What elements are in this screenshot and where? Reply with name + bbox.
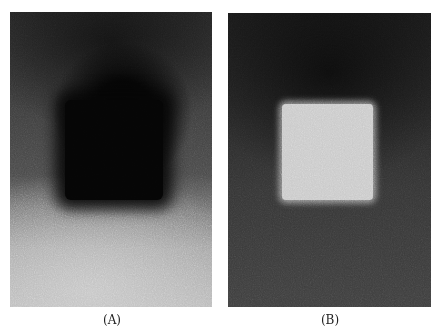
grain-texture [228, 13, 431, 307]
micrograph-panel-b [228, 13, 431, 307]
grain-texture [10, 12, 212, 307]
panel-a-caption: (A) [92, 313, 132, 327]
panel-b-caption: (B) [310, 313, 350, 327]
micrograph-panel-a [10, 12, 212, 307]
